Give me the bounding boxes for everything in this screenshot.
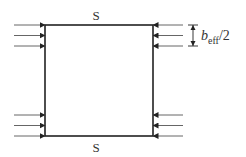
left-bottom-arrows xyxy=(14,115,45,136)
panel-square xyxy=(45,25,153,136)
right-bottom-arrows xyxy=(153,115,183,136)
right-top-arrows xyxy=(153,25,183,46)
top-label: S xyxy=(92,8,99,23)
arrow-down-icon xyxy=(191,41,196,46)
dimension-label: beff/2 xyxy=(201,28,230,46)
dimension-bracket xyxy=(188,25,198,46)
left-top-arrows xyxy=(14,25,45,46)
arrow-up-icon xyxy=(191,25,196,30)
bottom-label: S xyxy=(92,140,99,155)
diagram-canvas: S S beff/2 xyxy=(0,0,246,157)
